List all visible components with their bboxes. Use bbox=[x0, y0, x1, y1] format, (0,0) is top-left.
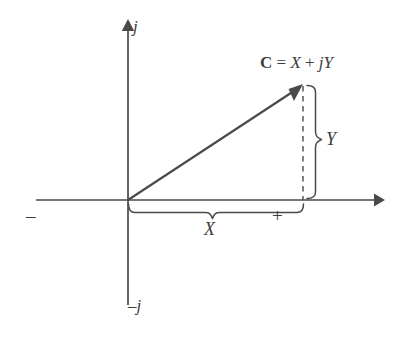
vector-symbol-C: C bbox=[260, 53, 272, 72]
y-brace-path bbox=[307, 86, 322, 199]
plus-sign: + bbox=[301, 53, 319, 72]
diagram-canvas bbox=[0, 0, 406, 340]
imaginary-axis-positive-label: j bbox=[133, 18, 138, 35]
vector-equation-label: C = X + jY bbox=[260, 54, 333, 71]
real-axis-positive-sign: + bbox=[272, 206, 283, 225]
equals-sign: = bbox=[272, 53, 290, 72]
phasor-diagram-figure: j –j – + X Y C = X + jY bbox=[0, 0, 406, 340]
real-part-symbol: X bbox=[290, 53, 300, 72]
real-axis-negative-sign: – bbox=[26, 206, 36, 225]
y-magnitude-brace bbox=[307, 86, 322, 199]
vertical-axis bbox=[122, 19, 134, 305]
vector-arrowhead-icon bbox=[289, 84, 304, 101]
vector-shaft bbox=[128, 89, 297, 200]
horizontal-axis-arrowhead-icon bbox=[374, 194, 385, 207]
x-component-label: X bbox=[204, 220, 215, 238]
complex-vector-C bbox=[128, 84, 303, 200]
y-component-label: Y bbox=[326, 130, 336, 148]
imaginary-part-symbol: Y bbox=[324, 53, 333, 72]
imaginary-axis-negative-label: –j bbox=[128, 297, 141, 314]
horizontal-axis bbox=[36, 194, 385, 207]
